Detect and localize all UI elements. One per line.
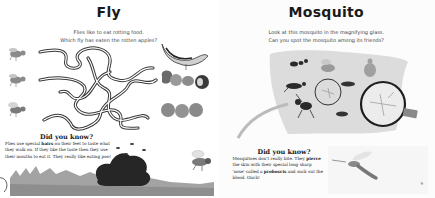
mosquito-fact-bold2: proboscis — [264, 169, 287, 174]
fly-intro-line1: Flies like to eat rotting food. — [0, 29, 218, 37]
page-title-fly: Fly — [0, 4, 218, 20]
mosquito-did-you-know-heading: Did you know? — [258, 148, 311, 156]
mosquito-intro-line1: Look at this mosquito in the magnifying … — [218, 29, 435, 37]
fly-icon — [9, 48, 26, 61]
fly-icon — [8, 102, 26, 117]
page-number: 9 — [421, 181, 424, 186]
foods-illustration — [158, 38, 214, 138]
mosquito-did-you-know-text: Mosquitoes don't really bite. They pierc… — [233, 156, 325, 181]
fly-icon — [9, 74, 26, 87]
maze-illustration — [38, 40, 158, 135]
fly-fact-part1: Flies use special — [5, 141, 41, 146]
magnifying-glass-icon — [361, 82, 418, 126]
mosquito-intro-line2: Can you spot the mosquito among its frie… — [218, 37, 435, 45]
flies-start-illustration — [4, 46, 28, 126]
page-curl-mark — [0, 178, 7, 192]
fly-page: Fly Flies like to eat rotting food. Whic… — [0, 0, 218, 198]
mosquito-intro: Look at this mosquito in the magnifying … — [218, 29, 435, 44]
book-spread: Fly Flies like to eat rotting food. Whic… — [0, 0, 435, 198]
mosquito-page: Mosquito Look at this mosquito in the ma… — [218, 0, 435, 198]
large-fly-icon — [192, 151, 211, 172]
leaf-insects-illustration — [218, 44, 435, 140]
page-title-mosquito: Mosquito — [218, 4, 435, 20]
mosquito-fact-part1: Mosquitoes don't really bite. They — [233, 156, 307, 161]
fresh-apples-icon — [161, 103, 203, 118]
fly-fact-bold: hairs — [41, 141, 53, 146]
fly-did-you-know-text: Flies use special hairs on their feet to… — [5, 141, 117, 160]
fly-did-you-know-heading: Did you know? — [40, 133, 93, 141]
small-fly-icon — [116, 143, 146, 155]
rotten-apples-icon — [162, 70, 209, 89]
mosquito-closeup-illustration — [328, 146, 428, 194]
banana-peel-icon — [162, 44, 208, 70]
mosquito-fact-bold1: pierce — [306, 156, 321, 161]
